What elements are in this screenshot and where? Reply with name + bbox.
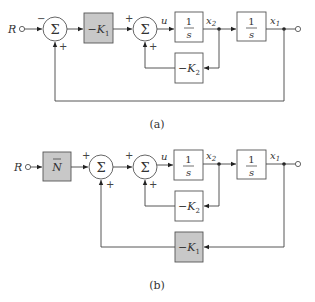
sign-plus: +	[82, 150, 90, 161]
svg-text:s: s	[249, 167, 254, 178]
block-diagrams: R Σ − + −K1 + Σ + u 1 s x2	[0, 0, 315, 302]
svg-text:N: N	[51, 161, 62, 174]
input-terminal	[19, 26, 24, 31]
signal-u-label: u	[161, 15, 167, 26]
caption-a: (a)	[149, 118, 164, 131]
svg-text:s: s	[186, 167, 191, 178]
svg-text:Σ: Σ	[140, 22, 149, 37]
sign-plus: +	[106, 179, 114, 190]
summing-junction-2: Σ	[133, 17, 157, 41]
gain-block-neg-k2: −K2	[175, 53, 203, 83]
sign-plus: +	[59, 41, 67, 52]
output-terminal	[295, 26, 300, 31]
prefilter-block-nbar: N	[43, 152, 71, 181]
svg-text:1: 1	[248, 16, 254, 27]
sign-minus: −	[37, 13, 45, 24]
wire-x2-to-k2	[204, 164, 219, 206]
svg-text:1: 1	[248, 154, 254, 165]
integrator-block-1: 1 s	[175, 12, 203, 42]
gain-block-neg-k2: −K2	[175, 191, 203, 221]
signal-x1-label: x1	[270, 150, 280, 163]
diagram-a: R Σ − + −K1 + Σ + u 1 s x2	[7, 12, 301, 131]
sign-plus: +	[149, 41, 157, 52]
summing-junction-2: Σ	[133, 155, 157, 179]
sign-plus: +	[125, 150, 133, 161]
signal-x2-label: x2	[206, 150, 217, 163]
signal-x2-label: x2	[206, 15, 217, 28]
svg-text:1: 1	[186, 16, 192, 27]
sign-plus: +	[125, 13, 133, 24]
integrator-block-2: 1 s	[237, 150, 266, 179]
svg-text:Σ: Σ	[50, 22, 59, 37]
svg-text:s: s	[249, 29, 254, 40]
sign-plus: +	[149, 179, 157, 190]
input-label-r: R	[13, 161, 22, 174]
gain-block-neg-k1: −K1	[84, 13, 113, 43]
input-terminal	[25, 164, 30, 169]
signal-u-label: u	[161, 151, 167, 162]
caption-b: (b)	[149, 279, 165, 292]
svg-text:1: 1	[185, 154, 191, 165]
svg-text:s: s	[186, 29, 191, 40]
svg-text:Σ: Σ	[140, 160, 149, 175]
svg-text:Σ: Σ	[96, 160, 105, 175]
summing-junction-1: Σ	[89, 155, 113, 179]
summing-junction-1: Σ	[43, 17, 67, 41]
signal-x1-label: x1	[270, 15, 280, 28]
wire-x2-to-k2	[204, 29, 219, 68]
input-label-r: R	[7, 23, 16, 36]
integrator-block-1: 1 s	[174, 150, 203, 180]
integrator-block-2: 1 s	[237, 12, 266, 41]
diagram-b: R N + Σ + + Σ + u 1 s x2	[13, 150, 301, 292]
wire-k1-to-sum1	[101, 180, 175, 247]
gain-block-neg-k1: −K1	[175, 232, 203, 262]
output-terminal	[295, 161, 300, 166]
